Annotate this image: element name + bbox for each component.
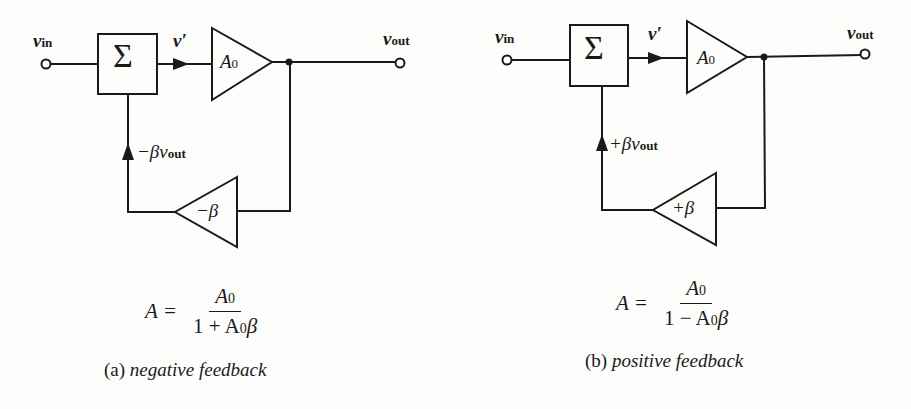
intermediate-label-b: v′: [648, 23, 662, 45]
feedback-signal-label-b: +βvout: [609, 133, 658, 155]
forward-gain-label-b: A0: [697, 47, 715, 69]
forward-amplifier-b: [687, 21, 747, 93]
arrow-feedback-a: [122, 143, 134, 160]
output-label-b: vout: [847, 22, 874, 44]
closed-loop-gain-formula-a: A = A0 1 + A0β: [145, 284, 263, 339]
output-terminal-b: [861, 50, 870, 59]
caption-a: (a) negative feedback: [104, 359, 266, 381]
arrow-feedback-b: [596, 134, 608, 151]
summer-symbol-a: Σ: [113, 37, 133, 75]
output-label-a: vout: [383, 28, 410, 50]
formula-denominator-a: 1 + A0β: [187, 312, 263, 339]
formula-numerator-b: A0: [680, 276, 712, 304]
formula-denominator-b: 1 − A0β: [658, 304, 734, 331]
feedback-signal-label-a: −βvout: [137, 141, 186, 163]
forward-gain-label-a: A0: [220, 51, 238, 73]
formula-lhs-a: A =: [145, 299, 177, 324]
feedback-gain-label-b: +β: [672, 197, 694, 219]
intermediate-label-a: v′: [173, 30, 187, 52]
formula-lhs-b: A =: [616, 291, 648, 316]
formula-numerator-a: A0: [209, 284, 241, 312]
summer-symbol-b: Σ: [584, 29, 604, 67]
input-label-b: vin: [495, 26, 514, 48]
junction-dot-b: [761, 54, 768, 61]
closed-loop-gain-formula-b: A = A0 1 − A0β: [616, 276, 734, 331]
arrow-forward-a: [173, 58, 189, 70]
input-label-a: vin: [33, 30, 52, 52]
junction-dot-a: [286, 59, 293, 66]
arrow-forward-b: [648, 52, 664, 64]
block-diagrams: [0, 0, 911, 409]
input-terminal-a: [42, 60, 51, 69]
feedback-gain-label-a: −β: [196, 200, 218, 222]
caption-b: (b) positive feedback: [585, 350, 743, 372]
output-terminal-a: [396, 59, 405, 68]
input-terminal-b: [503, 56, 512, 65]
